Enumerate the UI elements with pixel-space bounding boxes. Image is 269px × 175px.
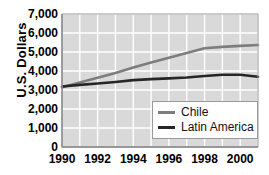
legend-entry: Chile	[158, 105, 251, 120]
x-axis-tick-labels: 199019921994199619982000	[0, 0, 269, 175]
x-tick-label: 2000	[218, 153, 262, 166]
chart-legend: ChileLatin America	[152, 101, 258, 139]
legend-swatch-icon	[158, 126, 175, 129]
legend-label: Chile	[181, 106, 208, 119]
legend-swatch-icon	[158, 111, 175, 114]
legend-label: Latin America	[181, 121, 254, 134]
line-chart: U.S. Dollars 01,0002,0003,0004,0005,0006…	[0, 0, 269, 175]
legend-entry: Latin America	[158, 120, 251, 135]
